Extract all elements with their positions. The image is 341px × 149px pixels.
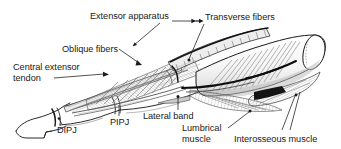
leader-oblique-fibers bbox=[119, 49, 139, 63]
label-extensor-apparatus: Extensor apparatus bbox=[90, 11, 169, 22]
leader-interosseous-muscle bbox=[282, 96, 295, 130]
label-central-extensor-tendon-line1: Central extensor bbox=[13, 62, 80, 73]
label-transverse-fibers: Transverse fibers bbox=[205, 12, 275, 23]
leader-central-extensor-tendon bbox=[54, 74, 104, 78]
finger-extensor-apparatus-drawing bbox=[0, 0, 341, 149]
label-lumbrical-muscle-line2: muscle bbox=[182, 134, 211, 145]
label-lateral-band: Lateral band bbox=[143, 111, 193, 122]
label-interosseous-muscle: Interosseous muscle bbox=[234, 134, 317, 145]
label-lumbrical-muscle-line1: Lumbrical bbox=[182, 123, 221, 134]
anatomical-figure: Extensor apparatus Transverse fibers Obl… bbox=[0, 0, 341, 149]
label-oblique-fibers: Oblique fibers bbox=[62, 44, 118, 55]
leader-lumbrical-muscle bbox=[228, 112, 249, 128]
leader-extensor-apparatus bbox=[133, 23, 160, 46]
label-dipj: DIPJ bbox=[57, 125, 77, 136]
label-pipj: PIPJ bbox=[110, 117, 129, 128]
leader-interosseous-muscle-2 bbox=[290, 92, 300, 130]
label-central-extensor-tendon-line2: tendon bbox=[13, 73, 41, 84]
